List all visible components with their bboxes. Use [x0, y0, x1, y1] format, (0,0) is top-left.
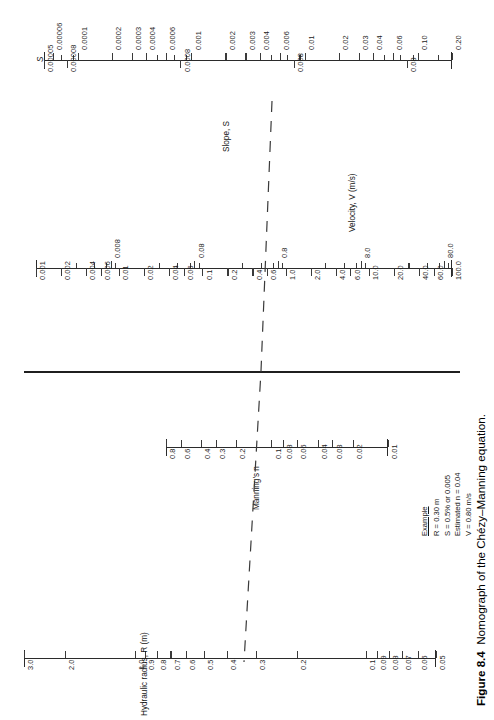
manning-axis-tick-label: 0.06 — [300, 444, 308, 459]
manning-axis-tick-label: 0.04 — [321, 444, 329, 459]
slope-axis-tick-label: 0.0008 — [184, 48, 192, 71]
slope-axis-tick-label: 0.0006 — [169, 26, 177, 49]
radius-axis-tick-label: 0.9 — [148, 659, 156, 670]
radius-axis-tick-label: 0.7 — [174, 659, 182, 670]
figure-caption: Figure 8.4 Nomograph of the Chézy–Mannin… — [474, 414, 487, 706]
velocity-axis-tick-label: 100.0 — [455, 261, 463, 280]
velocity-axis-tick-label: 6.0 — [354, 269, 362, 280]
slope-axis-tick-label: 0.002 — [229, 31, 237, 50]
velocity-axis-tick-label: 0.001 — [39, 261, 47, 280]
velocity-axis-tick-label: 1.0 — [289, 269, 297, 280]
velocity-axis-tick-label: 0.1 — [206, 269, 214, 280]
slope-axis-tick-label: 0.02 — [342, 35, 350, 50]
velocity-axis-tick-label: 0.02 — [147, 265, 155, 280]
manning-axis-tick-label: 0.3 — [219, 448, 227, 459]
slope-axis-tick-label: 0.0001 — [81, 26, 89, 49]
velocity-axis-tick-label: 4.0 — [339, 269, 347, 280]
velocity-axis-tick-label: 40.0 — [422, 265, 430, 280]
radius-axis-tick-label: 0.06 — [421, 655, 429, 670]
slope-axis-tick-label: 0.01 — [308, 35, 316, 50]
velocity-axis-tick-label: 20.0 — [397, 265, 405, 280]
slope-axis-tick-label: 0.04 — [376, 35, 384, 50]
example-block: Example R = 0.30 m S = 0.5% or 0.005 Est… — [420, 472, 474, 536]
radius-axis-tick-label: 0.6 — [189, 659, 197, 670]
velocity-axis-tick-label: 0.4 — [256, 269, 264, 280]
velocity-axis-tick-label: 0.06 — [187, 265, 195, 280]
figure-caption-text: Nomograph of the Chézy–Manning equation. — [474, 414, 487, 645]
velocity-axis-tick-label: 0.8 — [281, 247, 289, 258]
slope-axis-tick-label: 0.08 — [410, 57, 418, 72]
slope-axis-tick-label: 0.003 — [249, 31, 257, 50]
figure-number: Figure 8.4 — [474, 651, 487, 706]
example-line-n: Estimated n = 0.04 — [453, 472, 463, 536]
velocity-axis-tick-label: 0.2 — [231, 269, 239, 280]
velocity-axis-tick-label: 0.008 — [114, 239, 122, 258]
radius-axis-tick-label: 1.0 — [138, 659, 146, 670]
slope-axis-tick-label: 0.004 — [263, 31, 271, 50]
velocity-axis-tick-label: 0.006 — [104, 261, 112, 280]
manning-axis-tick-label: 0.1 — [275, 448, 283, 459]
slope-axis-tick-label: 0.008 — [297, 53, 305, 72]
slope-axis-tick-label: 0.0003 — [135, 26, 143, 49]
velocity-axis-tick-label: 10.0 — [372, 265, 380, 280]
slope-axis-tick-label: 0.0004 — [149, 26, 157, 49]
slope-axis-tick-label: 0.10 — [421, 35, 429, 50]
example-line-R: R = 0.30 m — [432, 472, 442, 536]
slope-axis-tick-label: 0.0002 — [115, 26, 123, 49]
radius-axis-tick-label: 0.4 — [230, 659, 238, 670]
manning-axis-tick-label: 0.6 — [184, 448, 192, 459]
example-heading: Example — [420, 472, 430, 536]
solution-line — [0, 0, 494, 720]
manning-axis-tick-label: 0.02 — [356, 444, 364, 459]
radius-axis-tick-label: 0.05 — [439, 655, 447, 670]
radius-axis-tick-label: 0.07 — [405, 655, 413, 670]
manning-axis-tick-label: 0.4 — [204, 448, 212, 459]
velocity-axis-tick-label: 80.0 — [447, 243, 455, 258]
manning-axis-tick-label: 0.03 — [336, 444, 344, 459]
radius-axis-tick-label: 0.2 — [300, 659, 308, 670]
example-line-V: V = 0.80 m/s — [464, 472, 474, 536]
radius-axis-tick-label: 0.5 — [207, 659, 215, 670]
velocity-axis-tick-label: 0.004 — [89, 261, 97, 280]
manning-axis-tick-label: 0.08 — [286, 444, 294, 459]
radius-axis-tick-label: 0.1 — [369, 659, 377, 670]
slope-axis-tick-label: 0.00006 — [56, 22, 64, 49]
slope-axis-tick-label: 0.00005 — [47, 44, 55, 71]
radius-axis-tick-label: 0.09 — [380, 655, 388, 670]
radius-axis-tick-label: 3.0 — [27, 659, 35, 670]
manning-axis-tick-label: 0.8 — [169, 448, 177, 459]
velocity-axis-tick-label: 8.0 — [364, 247, 372, 258]
slope-axis-tick-label: 0.001 — [195, 31, 203, 50]
radius-axis-tick-label: 0.3 — [259, 659, 267, 670]
slope-axis-tick-label: 0.20 — [455, 35, 463, 50]
velocity-axis-tick-label: 0.6 — [270, 269, 278, 280]
radius-axis-tick-label: 0.08 — [392, 655, 400, 670]
velocity-axis-tick-label: 60.0 — [437, 265, 445, 280]
slope-axis-tick-label: 0.06 — [396, 35, 404, 50]
velocity-axis-tick-label: 2.0 — [314, 269, 322, 280]
radius-axis-tick-label: 0.8 — [160, 659, 168, 670]
slope-axis-tick-label: 0.03 — [362, 35, 370, 50]
nomograph-figure: S Slope, S Velocity, V (m/s) Manning's n… — [0, 0, 494, 720]
velocity-axis-tick-label: 0.01 — [122, 265, 130, 280]
velocity-axis-tick-label: 0.04 — [172, 265, 180, 280]
slope-axis-tick-label: 0.00008 — [70, 44, 78, 71]
radius-axis-tick-label: 2.0 — [68, 659, 76, 670]
velocity-axis-tick-label: 0.002 — [64, 261, 72, 280]
manning-axis-tick-label: 0.2 — [239, 448, 247, 459]
manning-axis-tick-label: 0.01 — [391, 444, 399, 459]
example-line-S: S = 0.5% or 0.005 — [443, 472, 453, 536]
velocity-axis-tick-label: 0.08 — [198, 243, 206, 258]
slope-axis-tick-label: 0.006 — [283, 31, 291, 50]
